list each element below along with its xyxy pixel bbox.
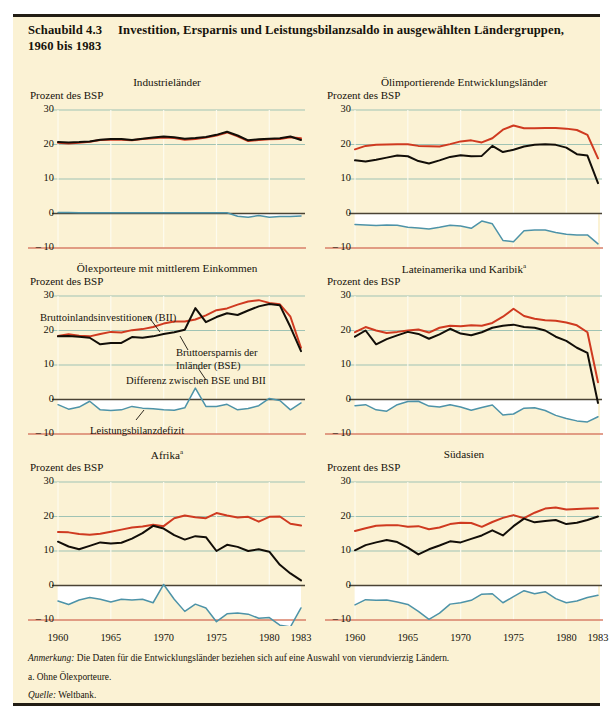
y-tick-label: 20 — [325, 324, 351, 335]
annotation-differenz: Differenz zwischen BSE und BII — [126, 374, 266, 387]
y-tick-label: 0 — [28, 207, 54, 218]
top-rule — [13, 14, 600, 17]
y-tick-label: 0 — [325, 579, 351, 590]
y-tick-label: 30 — [28, 289, 54, 300]
y-axis-label: Prozent des BSP — [30, 275, 103, 287]
y-tick-label: – 10 — [28, 613, 54, 624]
y-tick-label: – 10 — [325, 613, 351, 624]
y-tick-label: – 10 — [28, 427, 54, 438]
chart-panel-2: Ölimportierende EntwicklungsländerProzen… — [325, 76, 603, 258]
balance-fill — [355, 400, 598, 422]
footnote-quelle-label: Quelle: — [28, 690, 56, 700]
panel-title-footnote-marker: a — [523, 262, 526, 270]
y-tick-label: 0 — [325, 207, 351, 218]
plot-area — [325, 474, 603, 626]
plot-svg — [28, 474, 306, 626]
bottom-rule — [13, 703, 600, 706]
chart-panel-6: SüdasienProzent des BSP3020100– 10196019… — [325, 448, 603, 630]
y-tick-label: – 10 — [325, 427, 351, 438]
y-tick-label: 10 — [28, 544, 54, 555]
y-tick-label: 30 — [325, 103, 351, 114]
x-tick-label: 1960 — [345, 632, 366, 643]
plot-svg — [28, 102, 306, 254]
x-axis: 196019651970197519801983 — [325, 632, 603, 648]
panel-title: Südasien — [325, 448, 603, 460]
x-tick-label: 1970 — [450, 632, 471, 643]
plot-svg — [325, 102, 603, 254]
y-tick-label: 30 — [325, 289, 351, 300]
y-axis-label: Prozent des BSP — [327, 89, 400, 101]
series-investment-line — [355, 508, 598, 531]
y-axis-label: Prozent des BSP — [327, 461, 400, 473]
balance-fill — [355, 586, 598, 620]
figure-container: Schaubild 4.3Investition, Ersparnis und … — [13, 14, 600, 706]
y-tick-label: 30 — [325, 475, 351, 486]
footnote-quelle: Quelle: Weltbank. — [28, 690, 96, 700]
series-savings-line — [355, 325, 598, 403]
y-tick-label: 10 — [28, 172, 54, 183]
y-tick-label: 30 — [28, 103, 54, 114]
panel-title: Lateinamerika und Karibika — [325, 262, 603, 275]
y-tick-label: 20 — [28, 138, 54, 149]
plot-area — [325, 288, 603, 440]
x-tick-label: 1975 — [503, 632, 524, 643]
y-tick-label: 10 — [325, 172, 351, 183]
footnote-quelle-text: Weltbank. — [56, 690, 96, 700]
y-tick-label: 20 — [325, 510, 351, 521]
x-tick-label: 1983 — [588, 632, 609, 643]
x-axis: 196019651970197519801983 — [28, 632, 306, 648]
footnote-anmerkung-text: Die Daten für die Entwicklungsländer bez… — [74, 653, 449, 663]
chart-panel-5: AfrikaaProzent des BSP3020100– 101960196… — [28, 448, 306, 630]
y-tick-label: – 10 — [325, 241, 351, 252]
y-tick-label: 0 — [28, 393, 54, 404]
series-savings-line — [58, 132, 301, 143]
x-tick-label: 1965 — [100, 632, 121, 643]
series-savings-line — [355, 144, 598, 183]
y-tick-label: 30 — [28, 475, 54, 486]
figure-title-text: Investition, Ersparnis und Leistungsbila… — [118, 23, 564, 37]
footnote-anmerkung: Anmerkung: Die Daten für die Entwicklung… — [28, 653, 449, 663]
x-tick-label: 1980 — [556, 632, 577, 643]
panel-title: Ölexporteure mit mittlerem Einkommen — [28, 262, 306, 274]
annotation-bii: Bruttoinlandsinvestitionen (BII) — [40, 311, 176, 324]
y-tick-label: 20 — [28, 324, 54, 335]
chart-panel-1: IndustrieländerProzent des BSP3020100– 1… — [28, 76, 306, 258]
figure-title-line2: 1960 bis 1983 — [28, 39, 588, 55]
footnote-a: a. Ohne Ölexporteure. — [28, 672, 111, 682]
figure-number: Schaubild 4.3 — [28, 23, 102, 37]
y-tick-label: – 10 — [28, 241, 54, 252]
plot-svg — [325, 474, 603, 626]
series-investment-line — [355, 126, 598, 159]
annotation-bse: Bruttoersparnis derInländer (BSE) — [176, 346, 258, 372]
y-axis-label: Prozent des BSP — [327, 275, 400, 287]
y-tick-label: 20 — [28, 510, 54, 521]
balance-fill — [355, 214, 598, 244]
series-savings-line — [355, 517, 598, 555]
x-tick-label: 1975 — [206, 632, 227, 643]
chart-panel-4: Lateinamerika und KaribikaProzent des BS… — [325, 262, 603, 444]
figure-title-line1: Schaubild 4.3Investition, Ersparnis und … — [28, 23, 588, 39]
y-axis-label: Prozent des BSP — [30, 89, 103, 101]
series-investment-line — [355, 309, 598, 382]
plot-area — [325, 102, 603, 254]
y-tick-label: 0 — [325, 393, 351, 404]
chart-panel-3: Ölexporteure mit mittlerem EinkommenProz… — [28, 262, 306, 444]
y-tick-label: 20 — [325, 138, 351, 149]
x-tick-label: 1965 — [397, 632, 418, 643]
panel-title: Industrieländer — [28, 76, 306, 88]
y-tick-label: 10 — [325, 358, 351, 369]
panel-title: Ölimportierende Entwicklungsländer — [325, 76, 603, 88]
plot-svg — [325, 288, 603, 440]
y-axis-label: Prozent des BSP — [30, 461, 103, 473]
x-tick-label: 1980 — [259, 632, 280, 643]
figure-title: Schaubild 4.3Investition, Ersparnis und … — [28, 23, 588, 54]
panel-title: Afrikaa — [28, 448, 306, 461]
x-tick-label: 1970 — [153, 632, 174, 643]
plot-area — [28, 102, 306, 254]
footnote-anmerkung-label: Anmerkung: — [28, 653, 74, 663]
annotation-leistungsbilanz: Leistungsbilanzdefizit — [90, 424, 184, 437]
x-tick-label: 1960 — [48, 632, 69, 643]
panel-title-footnote-marker: a — [180, 448, 183, 456]
y-tick-label: 10 — [325, 544, 351, 555]
plot-area — [28, 474, 306, 626]
